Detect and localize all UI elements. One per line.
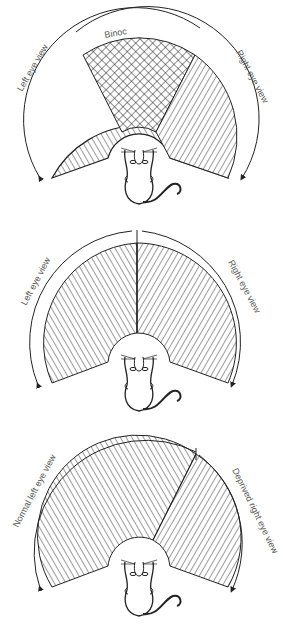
panel-normal: Binoc Left eye view Right eye view	[15, 7, 271, 204]
label-binoc: Binoc	[104, 26, 128, 40]
mouse-icon	[121, 355, 180, 411]
mouse-icon	[121, 560, 180, 616]
label-left-eye-view: Left eye view	[15, 42, 50, 93]
panel-split: Left eye view Right eye view	[19, 230, 263, 411]
panel-deprived: Normal left eye view Deprived right eye …	[11, 435, 280, 616]
label-right-eye-view-2: Right eye view	[226, 258, 263, 315]
label-right-eye-view: Right eye view	[234, 48, 271, 105]
visual-field-diagram: Binoc Left eye view Right eye view Left …	[0, 0, 283, 642]
